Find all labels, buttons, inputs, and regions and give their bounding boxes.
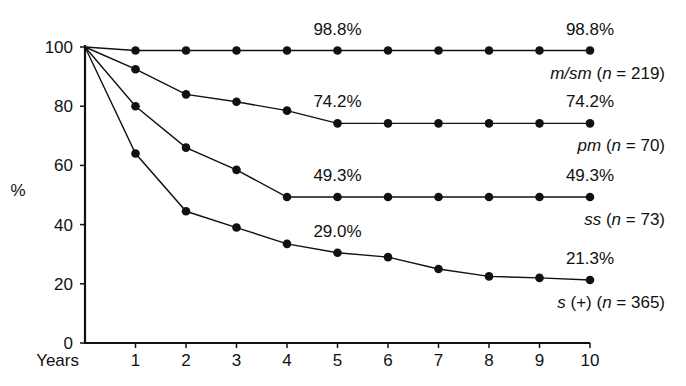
data-point	[485, 272, 494, 281]
data-point	[485, 193, 494, 202]
data-point	[283, 193, 292, 202]
data-point	[434, 193, 443, 202]
data-point	[384, 119, 393, 128]
y-tick-label: 100	[45, 38, 73, 57]
y-axis-label: %	[10, 181, 25, 200]
x-tick-label: 4	[282, 351, 291, 370]
data-point	[586, 276, 595, 285]
series-label: pm (n = 70)	[577, 136, 665, 155]
data-point	[384, 253, 393, 262]
data-point	[182, 90, 191, 99]
x-tick-label: 6	[383, 351, 392, 370]
data-point	[283, 106, 292, 115]
data-point	[485, 46, 494, 55]
series-label: s (+) (n = 365)	[557, 293, 665, 312]
survival-chart: 02040608010012345678910Years% 98.8%98.8%…	[0, 0, 686, 386]
data-point	[535, 119, 544, 128]
data-point	[232, 46, 241, 55]
data-point	[586, 119, 595, 128]
data-point	[535, 46, 544, 55]
value-annotation: 29.0%	[313, 222, 361, 241]
data-point	[131, 65, 140, 74]
x-tick-label: 5	[333, 351, 342, 370]
labels-group: 98.8%98.8%m/sm (n = 219)74.2%74.2%pm (n …	[313, 20, 665, 312]
data-point	[333, 193, 342, 202]
y-tick-label: 60	[54, 156, 73, 175]
data-point	[232, 97, 241, 106]
data-point	[232, 223, 241, 232]
series-label: ss (n = 73)	[584, 210, 665, 229]
data-point	[131, 46, 140, 55]
value-annotation: 98.8%	[566, 20, 614, 39]
x-tick-label: 10	[581, 351, 600, 370]
data-point	[384, 193, 393, 202]
data-point	[485, 119, 494, 128]
data-point	[535, 274, 544, 283]
x-tick-label: 7	[434, 351, 443, 370]
value-annotation: 49.3%	[313, 166, 361, 185]
x-tick-label: 9	[535, 351, 544, 370]
data-point	[434, 265, 443, 274]
data-point	[283, 240, 292, 249]
value-annotation: 49.3%	[566, 166, 614, 185]
x-tick-label: 2	[181, 351, 190, 370]
data-point	[182, 143, 191, 152]
y-tick-label: 20	[54, 275, 73, 294]
data-point	[384, 46, 393, 55]
data-point	[232, 166, 241, 175]
value-annotation: 74.2%	[313, 92, 361, 111]
data-point	[333, 119, 342, 128]
y-tick-label: 80	[54, 97, 73, 116]
x-tick-label: 3	[232, 351, 241, 370]
x-tick-label: 1	[131, 351, 140, 370]
value-annotation: 21.3%	[566, 249, 614, 268]
data-point	[182, 46, 191, 55]
data-point	[131, 149, 140, 158]
y-tick-label: 40	[54, 216, 73, 235]
data-point	[283, 46, 292, 55]
data-point	[586, 46, 595, 55]
data-point	[333, 248, 342, 257]
data-point	[182, 207, 191, 216]
data-point	[434, 119, 443, 128]
data-point	[131, 102, 140, 111]
series-label: m/sm (n = 219)	[550, 64, 665, 83]
data-point	[434, 46, 443, 55]
axes: 02040608010012345678910Years%	[10, 38, 599, 370]
data-point	[586, 193, 595, 202]
value-annotation: 74.2%	[566, 92, 614, 111]
data-point	[535, 193, 544, 202]
series-line-1	[85, 47, 590, 123]
value-annotation: 98.8%	[313, 20, 361, 39]
x-axis-label: Years	[36, 351, 79, 370]
data-point	[333, 46, 342, 55]
x-tick-label: 8	[484, 351, 493, 370]
